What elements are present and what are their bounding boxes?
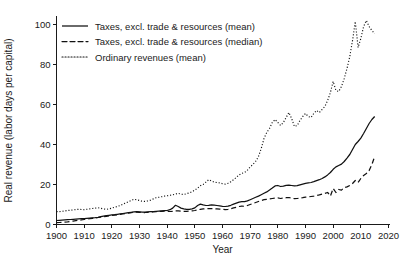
x-tick-label-1950: 1950 bbox=[184, 230, 205, 241]
y-tick-label-60: 60 bbox=[40, 99, 51, 110]
legend-label-2: Ordinary revenues (mean) bbox=[95, 52, 206, 63]
x-tick-label-1910: 1910 bbox=[74, 230, 95, 241]
y-axis-title: Real revenue (labor days per capital) bbox=[3, 39, 14, 203]
x-tick-label-1990: 1990 bbox=[295, 230, 316, 241]
x-tick-label-1980: 1980 bbox=[267, 230, 288, 241]
revenue-line-chart: 020406080100 190019101920193019401950196… bbox=[0, 0, 405, 272]
x-tick-label-1900: 1900 bbox=[46, 230, 67, 241]
x-tick-label-2020: 2020 bbox=[378, 230, 399, 241]
x-tick-label-1940: 1940 bbox=[157, 230, 178, 241]
x-tick-label-1970: 1970 bbox=[240, 230, 261, 241]
y-tick-label-100: 100 bbox=[35, 19, 51, 30]
x-tick-label-2010: 2010 bbox=[350, 230, 371, 241]
y-tick-label-40: 40 bbox=[40, 139, 51, 150]
x-tick-label-1960: 1960 bbox=[212, 230, 233, 241]
x-tick-label-1920: 1920 bbox=[101, 230, 122, 241]
y-tick-label-80: 80 bbox=[40, 59, 51, 70]
x-axis-title: Year bbox=[212, 244, 233, 255]
x-tick-label-2000: 2000 bbox=[323, 230, 344, 241]
y-tick-label-0: 0 bbox=[45, 219, 50, 230]
legend-label-1: Taxes, excl. trade & resources (median) bbox=[95, 36, 262, 47]
chart-container: 020406080100 190019101920193019401950196… bbox=[0, 0, 405, 272]
legend-label-0: Taxes, excl. trade & resources (mean) bbox=[95, 21, 255, 32]
y-tick-label-20: 20 bbox=[40, 179, 51, 190]
x-tick-label-1930: 1930 bbox=[129, 230, 150, 241]
